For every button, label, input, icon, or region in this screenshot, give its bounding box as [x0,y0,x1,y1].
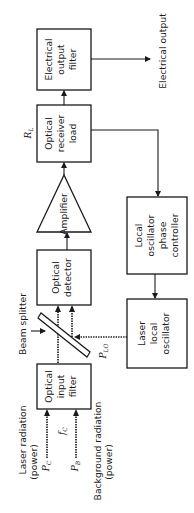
plo-label: PLO [98,343,109,359]
svg-text:output: output [55,44,66,75]
svg-text:detector: detector [62,258,73,297]
laser-local-oscillator-block: Laser local oscillator [127,299,187,368]
svg-text:oscillator: oscillator [160,312,171,354]
svg-text:Optical: Optical [43,117,54,149]
electrical-output-label: Electrical output [157,13,168,89]
laser-radiation-power-label: (power) [28,444,39,480]
svg-text:Local: Local [133,224,144,248]
svg-text:receiver: receiver [55,115,66,153]
pc-label: PC [41,460,52,472]
optical-detector-block: Optical detector [37,250,91,305]
svg-text:Electrical: Electrical [43,38,54,80]
svg-text:controller: controller [169,213,180,257]
fc-label: fC [57,427,68,436]
lo-beam-arrowhead [74,334,80,340]
svg-text:input: input [55,374,66,398]
electrical-output-filter-block: Electrical output filter [37,29,91,90]
beam-splitter-label: Beam splitter [17,293,28,355]
svg-text:filter: filter [67,376,78,398]
signal-beam-arrowhead [55,305,61,312]
svg-text:Laser: Laser [136,321,147,346]
background-radiation-arrowhead [73,409,79,416]
background-radiation-power-label: (power) [103,444,114,480]
load-to-phase-controller-arrow [91,130,158,196]
svg-text:load: load [67,124,78,144]
lo-phase-controller-block: Local oscillator phase controller [127,197,187,274]
svg-text:Optical: Optical [50,261,61,293]
svg-text:phase: phase [157,221,168,249]
optical-input-filter-block: Optical input filter [37,364,91,409]
svg-text:local: local [148,323,159,344]
optical-receiver-load-block: Optical receiver load [37,105,91,162]
svg-text:filter: filter [67,49,78,71]
laser-radiation-label: Laser radiation [17,405,28,474]
rl-label: RL [23,128,34,140]
svg-text:Optical: Optical [43,370,54,402]
pb-label: PB [70,460,81,472]
beam-splitter [38,313,90,357]
amplifier-block: Amplifier [37,175,91,235]
svg-text:Amplifier: Amplifier [58,193,69,235]
svg-text:oscillator: oscillator [145,214,156,256]
laser-radiation-arrowhead [44,409,50,416]
coherent-receiver-diagram: Electrical output filter Electrical outp… [0,0,194,513]
combined-beam-arrowhead [69,305,75,312]
background-radiation-label: Background radiation [92,401,103,500]
